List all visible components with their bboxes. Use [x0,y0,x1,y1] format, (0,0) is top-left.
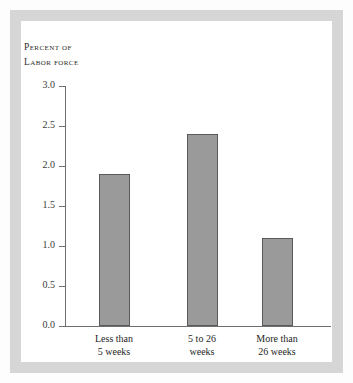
x-axis-label-line: 26 weeks [232,345,322,358]
y-tick-label: 0.0 [27,319,55,330]
plot-area: 0.00.51.01.52.02.53.0 Less than5 weeks5 … [0,0,353,383]
y-tick-label: 2.5 [27,119,55,130]
x-axis-label-line: More than [232,332,322,345]
x-axis-label: More than26 weeks [232,332,322,358]
y-tick-mark [59,206,65,207]
y-tick-label: 0.5 [27,279,55,290]
y-tick-label: 1.0 [27,239,55,250]
x-axis-label: Less than5 weeks [69,332,159,358]
y-tick-mark [59,86,65,87]
chart-figure: Percent of Labor force 0.00.51.01.52.02.… [0,0,353,383]
x-axis-line [65,326,331,327]
y-tick-label: 1.5 [27,199,55,210]
y-axis-line [65,86,66,327]
y-tick-mark [59,286,65,287]
bar [262,238,293,326]
x-axis-label-line: Less than [69,332,159,345]
y-tick-label: 2.0 [27,159,55,170]
bar [99,174,130,326]
y-tick-mark [59,166,65,167]
bar [187,134,218,326]
x-axis-label-line: 5 weeks [69,345,159,358]
y-tick-mark [59,126,65,127]
y-tick-label: 3.0 [27,79,55,90]
y-tick-mark [59,246,65,247]
y-tick-mark [59,326,65,327]
